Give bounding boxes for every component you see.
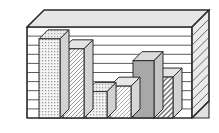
ceiling-face bbox=[27, 10, 209, 27]
bar-1 bbox=[39, 30, 69, 118]
bar-5-side-face bbox=[154, 52, 163, 118]
chart-container bbox=[0, 0, 219, 133]
bar-6-side-face bbox=[173, 68, 182, 118]
bar-1-front-face bbox=[39, 39, 60, 118]
bar-chart-3d bbox=[0, 0, 219, 133]
bar-1-side-face bbox=[60, 30, 69, 118]
bar-2-side-face bbox=[84, 40, 93, 118]
